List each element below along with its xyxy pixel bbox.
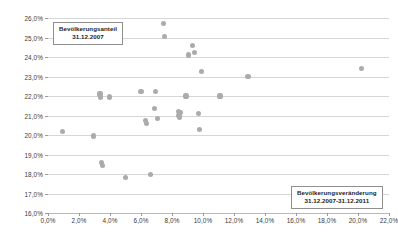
data-point <box>199 69 204 74</box>
x-axis-tick-label: 20,0% <box>349 217 368 224</box>
data-point <box>153 89 158 94</box>
y-axis-tick <box>45 38 48 39</box>
gridline-horizontal <box>48 155 389 156</box>
x-axis-tick <box>203 213 204 216</box>
gridline-horizontal <box>48 18 389 19</box>
data-point <box>91 133 96 138</box>
y-axis-annotation-line1: Bevölkerungsanteil <box>59 25 117 33</box>
y-axis-tick-label: 23,0% <box>24 73 43 80</box>
data-point <box>100 163 105 168</box>
x-axis-tick <box>48 213 49 216</box>
y-axis-tick-label: 17,0% <box>24 190 43 197</box>
x-axis-tick <box>172 213 173 216</box>
data-point <box>186 52 191 57</box>
data-point <box>107 94 112 99</box>
data-point <box>178 110 183 115</box>
x-axis-tick-label: 0,0% <box>41 217 56 224</box>
x-axis-tick <box>110 213 111 216</box>
x-axis-tick-label: 6,0% <box>134 217 149 224</box>
x-axis-tick-label: 8,0% <box>165 217 180 224</box>
data-point <box>190 43 195 48</box>
y-axis-tick <box>45 77 48 78</box>
x-axis-tick <box>327 213 328 216</box>
data-point <box>98 94 103 99</box>
x-axis-tick-label: 22,0% <box>380 217 398 224</box>
x-axis-annotation-box: Bevölkerungsveränderung 31.12.2007-31.12… <box>291 186 383 209</box>
y-axis-tick <box>45 96 48 97</box>
x-axis-tick <box>79 213 80 216</box>
data-point <box>138 89 143 94</box>
x-axis-annotation-line1: Bevölkerungsveränderung <box>297 189 377 197</box>
gridline-horizontal <box>48 77 389 78</box>
x-axis-tick-label: 16,0% <box>287 217 306 224</box>
x-axis-line <box>48 213 389 214</box>
y-axis-annotation-line2: 31.12.2007 <box>59 33 117 41</box>
x-axis-tick <box>141 213 142 216</box>
x-axis-tick-label: 18,0% <box>318 217 337 224</box>
data-point <box>245 74 250 79</box>
x-axis-tick <box>265 213 266 216</box>
data-point <box>123 175 128 180</box>
y-axis-tick-label: 18,0% <box>24 171 43 178</box>
y-axis-tick-label: 24,0% <box>24 54 43 61</box>
y-axis-tick <box>45 194 48 195</box>
data-point <box>148 172 153 177</box>
y-axis-tick <box>45 18 48 19</box>
data-point <box>196 111 201 116</box>
data-point <box>144 121 149 126</box>
data-point <box>197 127 202 132</box>
gridline-horizontal <box>48 57 389 58</box>
data-point <box>177 115 182 120</box>
y-axis-tick-label: 20,0% <box>24 132 43 139</box>
y-axis-tick-label: 25,0% <box>24 34 43 41</box>
x-axis-annotation-line2: 31.12.2007-31.12.2011 <box>297 197 377 205</box>
data-point <box>183 93 188 98</box>
y-axis-tick <box>45 174 48 175</box>
x-axis-tick <box>234 213 235 216</box>
y-axis-tick-label: 21,0% <box>24 112 43 119</box>
y-axis-tick <box>45 155 48 156</box>
x-axis-tick-label: 12,0% <box>225 217 244 224</box>
data-point <box>161 21 166 26</box>
y-axis-tick-label: 26,0% <box>24 15 43 22</box>
y-axis-tick <box>45 116 48 117</box>
y-axis-tick <box>45 57 48 58</box>
x-axis-tick <box>389 213 390 216</box>
x-axis-tick-label: 10,0% <box>194 217 213 224</box>
y-axis-tick <box>45 135 48 136</box>
data-point <box>152 106 157 111</box>
y-axis-tick-label: 22,0% <box>24 93 43 100</box>
y-axis-tick-label: 16,0% <box>24 210 43 217</box>
y-axis-annotation-box: Bevölkerungsanteil 31.12.2007 <box>53 22 123 45</box>
x-axis-tick-label: 2,0% <box>72 217 87 224</box>
gridline-horizontal <box>48 174 389 175</box>
y-axis-tick-label: 19,0% <box>24 151 43 158</box>
data-point <box>217 93 222 98</box>
gridline-horizontal <box>48 116 389 117</box>
x-axis-tick-label: 14,0% <box>256 217 275 224</box>
x-axis-tick-label: 4,0% <box>103 217 118 224</box>
data-point <box>359 66 364 71</box>
data-point <box>60 129 65 134</box>
plot-area: 16,0%17,0%18,0%19,0%20,0%21,0%22,0%23,0%… <box>48 18 389 213</box>
data-point <box>162 34 167 39</box>
x-axis-tick <box>296 213 297 216</box>
data-point <box>155 116 160 121</box>
data-point <box>192 50 197 55</box>
x-axis-tick <box>358 213 359 216</box>
gridline-horizontal <box>48 135 389 136</box>
